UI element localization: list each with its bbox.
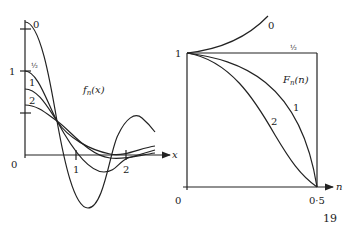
curve-label-2: 2	[29, 95, 35, 106]
rcurve-label-1: 1	[293, 102, 299, 113]
x-tick-label-1: 1	[73, 164, 79, 175]
curve-n0	[25, 22, 155, 208]
left-plot	[20, 20, 170, 208]
x-tick-label-2: 2	[123, 164, 129, 175]
right-origin-label: 0	[175, 195, 181, 206]
rcurve-n0	[187, 16, 268, 53]
right-plot	[183, 16, 333, 190]
left-function-label: fn(x)	[82, 84, 105, 97]
rcurve-label-half: ½	[290, 44, 297, 52]
right-x-axis-label: n	[336, 181, 342, 192]
right-x-tick-label: 0·5	[309, 195, 325, 206]
rcurve-label-0: 0	[268, 20, 274, 31]
page-number: 19	[323, 212, 337, 225]
right-function-label: Fn(n)	[282, 74, 309, 87]
x-axis-label: x	[172, 149, 178, 160]
right-y-tick-label-1: 1	[175, 48, 181, 59]
curve-n1	[25, 89, 155, 172]
rcurve-label-2: 2	[271, 116, 277, 127]
origin-label: 0	[11, 159, 17, 170]
curve-label-half: ½	[31, 62, 38, 70]
curve-label-0: 0	[33, 19, 39, 30]
curve-label-1: 1	[29, 77, 35, 88]
figure: 0 ½ 1 2 1 0 1 2 x fn(x) 0 ½ 1 2 1 0 0·5 …	[0, 0, 355, 228]
y-tick-label-1: 1	[9, 66, 15, 77]
